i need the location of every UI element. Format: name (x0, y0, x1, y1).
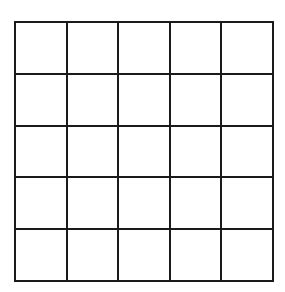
grid-cell (15, 126, 67, 178)
grid-cell (221, 126, 273, 178)
grid-cell (67, 22, 119, 74)
grid-cell (67, 74, 119, 126)
grid-cell (170, 229, 222, 281)
grid-cell (170, 126, 222, 178)
grid-cell (221, 22, 273, 74)
grid-cell (118, 74, 170, 126)
grid-cell (170, 74, 222, 126)
grid-cell (67, 126, 119, 178)
grid-cell (15, 229, 67, 281)
grid-cell (15, 74, 67, 126)
grid-cell (118, 229, 170, 281)
grid-cell (221, 177, 273, 229)
grid-cell (118, 177, 170, 229)
grid-cell (118, 126, 170, 178)
grid-cell (221, 229, 273, 281)
grid-5x5 (14, 21, 274, 282)
grid-cell (170, 177, 222, 229)
grid-cell (15, 177, 67, 229)
grid-cell (67, 229, 119, 281)
grid-cell (118, 22, 170, 74)
grid-cell (170, 22, 222, 74)
grid-cell (15, 22, 67, 74)
grid-cell (221, 74, 273, 126)
grid-cell (67, 177, 119, 229)
